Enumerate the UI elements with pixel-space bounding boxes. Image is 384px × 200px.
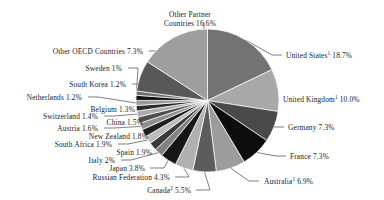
slice-label-name: France [290,152,311,161]
slice-label-name: Spain [116,148,134,157]
leader-line [114,114,137,116]
slice-label-russian-federation: Russian Federation4.3% [92,173,170,182]
slice-label-germany: Germany7.3% [288,123,335,132]
slice-label-value: 1.5% [127,118,143,127]
slice-label-value: 18.7% [332,51,352,60]
leader-line [257,152,276,156]
slice-label-netherlands: Netherlands1.2% [27,93,82,102]
slice-label-name: United Kingdom [283,95,335,104]
slice-label-italy: Italy2% [89,156,115,165]
slice-label-name: Switzerland [43,112,80,121]
slice-label-spain: Spain1.9% [116,148,152,157]
slice-label-name: Australia [264,177,292,186]
slice-label-value: 1.9% [136,148,152,157]
slice-label-name: United States [286,51,328,60]
slice-label-value: 7.3% [127,47,143,56]
slice-label-value: 6.9% [297,177,313,186]
slice-label-south-korea: South Korea1.2% [69,80,126,89]
slice-label-name: Japan [109,164,127,173]
slice-label-name: Italy [89,156,103,165]
slice-label-name: Canada [147,186,170,195]
slice-label-japan: Japan3.8% [109,164,145,173]
pie-chart-figure: United States118.7% United Kingdom110.0%… [0,0,384,200]
slice-label-new-zealand: New Zealand1.8% [89,132,148,141]
slice-label-austria: Austria1.6% [57,124,98,133]
leader-line [231,168,249,181]
slice-label-value: 4.3% [154,173,170,182]
slice-label-france: France7.3% [290,152,329,161]
slice-label-united-kingdom: United Kingdom110.0% [283,95,360,104]
slice-label-value: 10.0% [340,95,360,104]
slice-label-value: 1.6% [82,124,98,133]
slice-label-australia: Australia16.9% [264,177,313,186]
slice-label-value: 16.6% [196,19,216,28]
slice-label-name: Germany [288,123,317,132]
slice-label-name: Other OECD Countries [53,47,125,56]
pie-slices-group [136,29,279,172]
leader-line [98,97,136,103]
slice-label-value: 1.3% [119,105,135,114]
slice-label-footnote: 1 [292,176,295,182]
slice-label-footnote: 1 [335,94,338,100]
slice-label-name: Netherlands [27,93,64,102]
slice-label-value: 1.2% [66,93,82,102]
slice-label-value: 5.5% [175,186,191,195]
slice-label-footnote: 2 [170,185,173,191]
slice-label-value: 1.8% [132,132,148,141]
slice-label-other-partner-countries: Other Partner Countries16.6% [150,10,230,29]
slice-label-name: Sweden [86,64,110,73]
slice-label-value: 7.3% [313,152,329,161]
slice-label-name: South Korea [69,80,108,89]
slice-label-value: 3.8% [129,164,145,173]
slice-label-belgium: Belgium1.3% [91,105,136,114]
slice-label-united-states: United States118.7% [286,51,352,60]
slice-label-footnote: 1 [328,50,331,56]
slice-label-name: South Africa [55,140,94,149]
slice-label-sweden: Sweden1% [86,64,122,73]
slice-label-name: Austria [57,124,80,133]
slice-label-value: 2% [105,156,115,165]
slice-label-value: 7.3% [319,123,335,132]
slice-label-name: China [107,118,125,127]
slice-label-name: Russian Federation [92,173,152,182]
slice-label-canada: Canada25.5% [147,186,191,195]
leader-line [164,160,168,168]
slice-label-china: China1.5% [107,118,143,127]
slice-label-value: 1.9% [96,140,112,149]
slice-label-other-oecd-countries: Other OECD Countries7.3% [53,47,143,56]
slice-label-south-africa: South Africa1.9% [55,140,112,149]
slice-label-name: New Zealand [89,132,130,141]
slice-label-value: 1.2% [110,80,126,89]
slice-label-name: Belgium [91,105,118,114]
slice-label-value: 1% [112,64,122,73]
leader-line [204,172,210,190]
